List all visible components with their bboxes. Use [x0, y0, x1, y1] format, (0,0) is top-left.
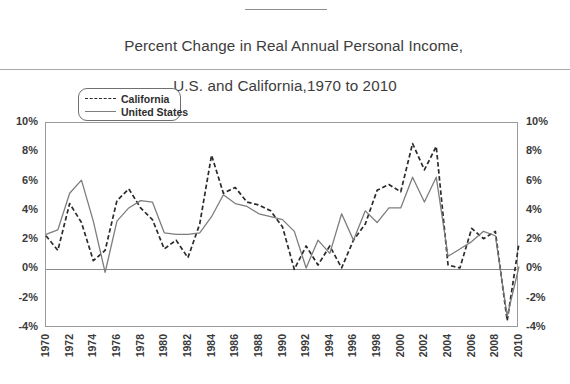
legend: California United States: [78, 88, 181, 121]
x-tick-1972: 1972: [64, 334, 75, 357]
x-tick-1994: 1994: [324, 334, 335, 357]
x-tick-1988: 1988: [253, 334, 264, 357]
header-divider: [0, 69, 570, 70]
x-tick-1974: 1974: [87, 334, 98, 357]
x-tick-2004: 2004: [442, 334, 453, 357]
series-line-california: [46, 144, 519, 321]
title-top-rule: [245, 9, 327, 10]
y-tick-left-0: 0%: [2, 262, 38, 273]
x-tick-1992: 1992: [300, 334, 311, 357]
x-tick-1982: 1982: [182, 334, 193, 357]
x-tick-2000: 2000: [395, 334, 406, 357]
y-tick-left-neg2: -2%: [2, 292, 38, 303]
y-tick-left-8: 8%: [2, 145, 38, 156]
y-tick-right-4: 4%: [526, 204, 566, 215]
y-tick-left-6: 6%: [2, 175, 38, 186]
x-tick-1970: 1970: [40, 334, 51, 357]
y-tick-right-8: 8%: [526, 145, 566, 156]
legend-item-united-states: United States: [85, 105, 180, 119]
x-tick-2002: 2002: [418, 334, 429, 357]
x-tick-2006: 2006: [466, 334, 477, 357]
y-tick-left-2: 2%: [2, 233, 38, 244]
y-tick-right-10: 10%: [526, 116, 566, 127]
y-tick-left-10: 10%: [2, 116, 38, 127]
y-tick-right-0: 0%: [526, 262, 566, 273]
x-tick-1996: 1996: [347, 334, 358, 357]
legend-item-california: California: [85, 92, 180, 106]
y-tick-right-neg2: -2%: [526, 292, 566, 303]
y-tick-left-neg4: -4%: [2, 321, 38, 332]
x-tick-2010: 2010: [513, 334, 524, 357]
x-tick-2008: 2008: [489, 334, 500, 357]
x-tick-1976: 1976: [111, 334, 122, 357]
data-series-layer: [46, 123, 519, 328]
chart-figure: Percent Change in Real Annual Personal I…: [0, 0, 570, 384]
series-line-united-states: [46, 177, 519, 316]
legend-label-california: California: [121, 92, 169, 106]
y-tick-left-4: 4%: [2, 204, 38, 215]
x-tick-1986: 1986: [229, 334, 240, 357]
y-tick-right-6: 6%: [526, 175, 566, 186]
solid-line-icon: [85, 111, 116, 112]
y-tick-right-2: 2%: [526, 233, 566, 244]
legend-label-united-states: United States: [121, 105, 188, 119]
dashed-line-icon: [85, 98, 116, 99]
x-tick-1990: 1990: [277, 334, 288, 357]
plot-area: [45, 122, 518, 327]
x-tick-1980: 1980: [158, 334, 169, 357]
x-tick-1998: 1998: [371, 334, 382, 357]
x-tick-1984: 1984: [206, 334, 217, 357]
y-tick-right-neg4: -4%: [526, 321, 566, 332]
chart-title-line-1: Percent Change in Real Annual Personal I…: [124, 37, 463, 54]
x-tick-1978: 1978: [135, 334, 146, 357]
